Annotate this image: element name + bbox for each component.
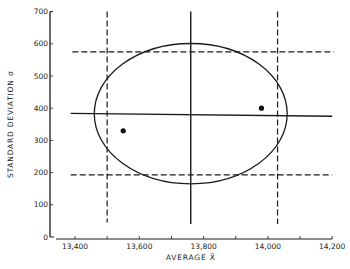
y-tick-label: 700: [34, 7, 49, 16]
chart: 0100200300400500600700STANDARD DEVIATION…: [0, 0, 350, 269]
x-tick-label: 14,000: [255, 242, 281, 251]
mean-sigma-line: [71, 113, 332, 116]
y-tick-label: 100: [34, 200, 49, 209]
y-tick-label: 0: [43, 233, 48, 242]
x-axis-title: AVERAGE X̄: [166, 253, 216, 262]
y-tick-label: 300: [34, 136, 49, 145]
x-tick-label: 14,200: [319, 242, 345, 251]
y-tick-label: 500: [34, 72, 49, 81]
data-point: [121, 128, 126, 133]
x-tick-label: 13,400: [62, 242, 88, 251]
chart-canvas: 0100200300400500600700STANDARD DEVIATION…: [0, 0, 350, 269]
y-tick-label: 200: [34, 168, 49, 177]
y-tick-label: 400: [34, 104, 49, 113]
data-point: [259, 106, 264, 111]
x-tick-label: 13,600: [126, 242, 152, 251]
y-axis-title: STANDARD DEVIATION σ: [6, 71, 15, 179]
y-tick-label: 600: [34, 39, 49, 48]
x-tick-label: 13,800: [190, 242, 216, 251]
